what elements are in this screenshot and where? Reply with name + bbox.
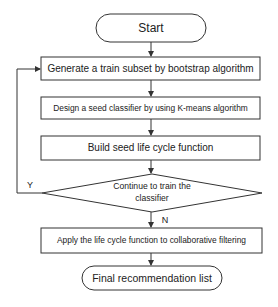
step2-label: Design a seed classifier by using K-mean… xyxy=(41,97,260,119)
no-edge-label: N xyxy=(159,214,171,226)
decision-label-line2: classifier xyxy=(92,192,212,205)
step4-label: Apply the life cycle function to collabo… xyxy=(41,228,262,253)
start-label: Start xyxy=(96,14,206,42)
yes-edge-label: Y xyxy=(24,179,36,191)
step1-label: Generate a train subset by bootstrap alg… xyxy=(41,57,260,80)
step3-label: Build seed life cycle function xyxy=(41,136,260,160)
end-label: Final recommendation list xyxy=(82,266,222,290)
edge-decision-loop-yes xyxy=(17,69,42,193)
